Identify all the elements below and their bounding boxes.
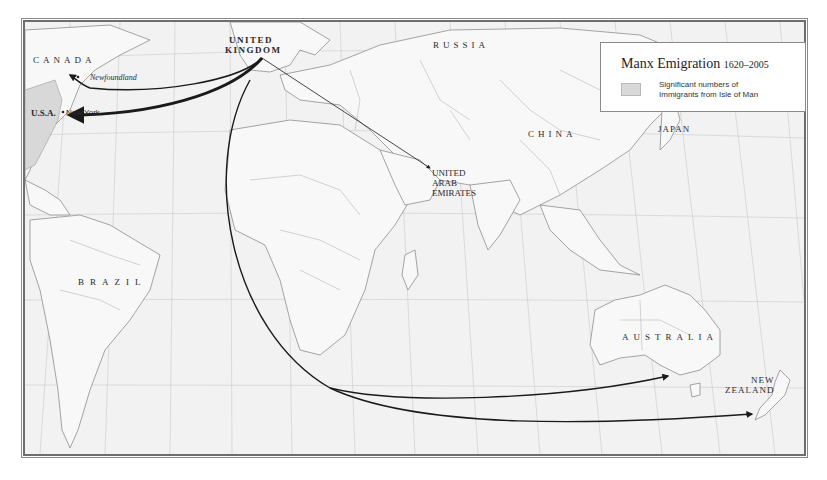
label-uae-line3: EMIRATES <box>432 188 476 198</box>
label-united-kingdom: UNITED KINGDOM <box>225 35 282 55</box>
label-uk-line2: KINGDOM <box>225 45 282 55</box>
label-china: CHINA <box>528 129 577 139</box>
map-root: CANADA U.S.A. New York Newfoundland UNIT… <box>0 0 827 480</box>
label-usa: U.S.A. <box>31 108 56 118</box>
legend-title: Manx Emigration 1620–2005 <box>621 56 769 72</box>
label-new-zealand: NEW ZEALAND <box>723 375 775 395</box>
legend-title-text: Manx Emigration <box>621 56 720 71</box>
legend-label-line1: Significant numbers of <box>659 80 758 90</box>
label-nz-line1: NEW <box>723 375 775 385</box>
label-newfoundland: Newfoundland <box>90 73 137 82</box>
label-uk-line1: UNITED <box>225 35 282 45</box>
label-uae-line2: ARAB <box>432 178 476 188</box>
label-uae-line1: UNITED <box>432 168 476 178</box>
legend-swatch-label: Significant numbers of Immigrants from I… <box>659 80 758 100</box>
map-legend: Manx Emigration 1620–2005 Significant nu… <box>600 42 806 112</box>
label-japan: JAPAN <box>658 124 690 134</box>
label-canada: CANADA <box>33 55 96 65</box>
new-york-dot <box>62 111 65 114</box>
label-brazil: BRAZIL <box>78 277 147 287</box>
label-russia: RUSSIA <box>433 40 489 50</box>
legend-label-line2: Immigrants from Isle of Man <box>659 90 758 100</box>
legend-swatch <box>621 83 641 96</box>
label-united-arab-emirates: UNITED ARAB EMIRATES <box>432 168 476 198</box>
label-australia: AUSTRALIA <box>622 332 718 342</box>
newfoundland-dot <box>77 76 80 79</box>
legend-years: 1620–2005 <box>724 59 769 70</box>
label-nz-line2: ZEALAND <box>723 385 775 395</box>
label-new-york: New York <box>66 108 100 117</box>
